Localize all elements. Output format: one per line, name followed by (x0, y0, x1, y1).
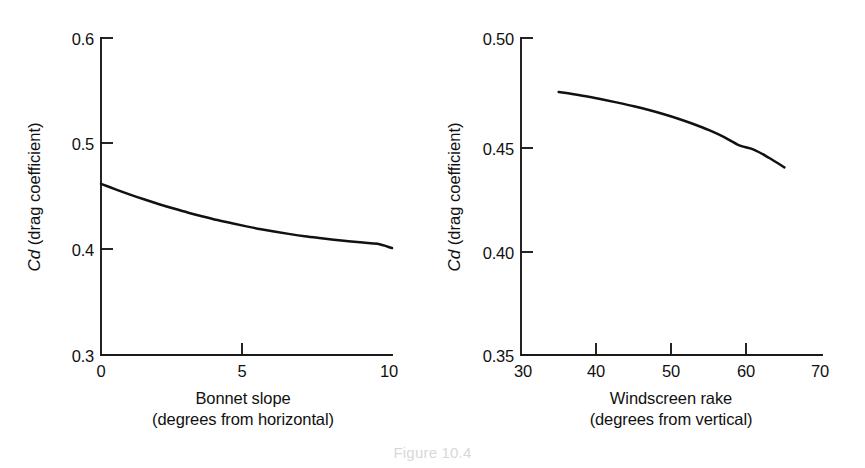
chart-svg-bonnet-slope: 0.6 0.5 0.4 0.3 0 5 10 Cd (drag coeffici… (0, 0, 432, 468)
chart-svg-windscreen-rake: 0.50 0.45 0.40 0.35 30 40 50 60 70 Cd (d… (430, 0, 865, 468)
figure-caption: Figure 10.4 (0, 444, 865, 468)
x-axis-title-right-chart: Windscreen rake (610, 389, 732, 407)
y-axis-title-right-chart: Cd (drag coefficient) (445, 123, 464, 272)
x-axis-subtitle-left-chart: (degrees from horizontal) (152, 410, 334, 428)
y-tick-label-0-40: 0.40 (483, 244, 514, 262)
y-axis-title-variable: Cd (445, 249, 464, 271)
x-tick-label-70: 70 (811, 362, 829, 380)
x-axis-subtitle-right-chart: (degrees from vertical) (590, 410, 753, 428)
chart-panel-bonnet-slope: 0.6 0.5 0.4 0.3 0 5 10 Cd (drag coeffici… (0, 0, 432, 468)
x-tick-label-60: 60 (737, 362, 755, 380)
svg-text:Cd (drag coefficient): Cd (drag coefficient) (25, 123, 44, 272)
x-tick-label-5: 5 (238, 362, 247, 380)
y-axis-title-rest: (drag coefficient) (25, 123, 43, 250)
y-tick-label-0-3: 0.3 (72, 347, 94, 365)
x-tick-label-10: 10 (380, 362, 398, 380)
x-tick-label-50: 50 (662, 362, 680, 380)
axis-spines-left-chart (101, 38, 392, 355)
x-axis-title-left-chart: Bonnet slope (195, 389, 290, 407)
y-tick-label-0-50: 0.50 (483, 30, 514, 48)
y-tick-label-0-6: 0.6 (72, 30, 94, 48)
y-tick-label-0-5: 0.5 (72, 135, 94, 153)
chart-panel-windscreen-rake: 0.50 0.45 0.40 0.35 30 40 50 60 70 Cd (d… (430, 0, 862, 468)
y-tick-label-0-4: 0.4 (72, 241, 94, 259)
svg-text:Cd (drag coefficient): Cd (drag coefficient) (445, 123, 464, 272)
y-ticks-right-chart (521, 38, 533, 252)
y-ticks-left-chart (101, 38, 113, 249)
y-axis-title-left-chart: Cd (drag coefficient) (25, 123, 44, 272)
x-ticks-right-chart (596, 343, 746, 355)
y-axis-title-variable: Cd (25, 249, 44, 271)
axis-spines-right-chart (521, 38, 822, 355)
y-tick-label-0-45: 0.45 (483, 140, 514, 158)
y-axis-title-rest: (drag coefficient) (445, 123, 463, 250)
x-tick-label-30: 30 (514, 362, 532, 380)
figure-canvas: 0.6 0.5 0.4 0.3 0 5 10 Cd (drag coeffici… (0, 0, 865, 468)
x-tick-label-40: 40 (587, 362, 605, 380)
data-curve-windscreen-rake (559, 92, 785, 167)
x-tick-label-0: 0 (97, 362, 106, 380)
y-tick-label-0-35: 0.35 (483, 347, 514, 365)
data-curve-bonnet-slope (101, 184, 392, 248)
